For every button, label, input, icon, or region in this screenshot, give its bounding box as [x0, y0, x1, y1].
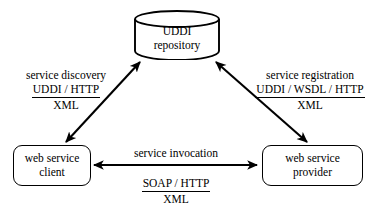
- node-web-service-provider[interactable]: web service provider: [262, 145, 363, 186]
- web-services-diagram: UDDI repository web service client web s…: [0, 0, 388, 209]
- edge-label-protocol: UDDI / HTTP: [32, 82, 100, 98]
- node-label-line: repository: [133, 38, 221, 52]
- edge-label-protocol: SOAP / HTTP: [142, 176, 211, 192]
- node-uddi-repository-label: UDDI repository: [133, 24, 221, 52]
- node-label-line: web service: [285, 152, 340, 166]
- node-uddi-repository[interactable]: UDDI repository: [133, 10, 221, 60]
- edge-label-title: service discovery: [10, 68, 122, 82]
- node-label-line: UDDI: [133, 24, 221, 38]
- edge-label-format: XML: [111, 192, 241, 206]
- edge-label-protocol: UDDI / WSDL / HTTP: [255, 82, 364, 98]
- edge-label-format: XML: [10, 98, 122, 112]
- node-label-line: provider: [293, 166, 332, 180]
- node-label-line: client: [39, 166, 65, 180]
- edge-label-service-invocation-title: service invocation: [111, 146, 241, 160]
- edge-label-service-registration: service registration UDDI / WSDL / HTTP …: [236, 68, 384, 113]
- edge-label-format: XML: [236, 98, 384, 112]
- edge-label-title: service invocation: [111, 146, 241, 160]
- node-web-service-client[interactable]: web service client: [13, 145, 91, 186]
- edge-label-title: service registration: [236, 68, 384, 82]
- edge-label-service-invocation-protocol: SOAP / HTTP XML: [111, 176, 241, 206]
- edge-label-service-discovery: service discovery UDDI / HTTP XML: [10, 68, 122, 113]
- node-label-line: web service: [25, 152, 80, 166]
